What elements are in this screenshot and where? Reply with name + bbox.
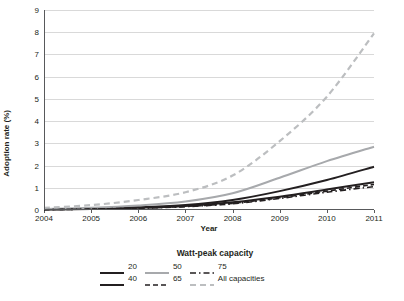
x-axis-tick-label: 2011	[365, 214, 382, 223]
legend-entry: 20	[100, 262, 137, 271]
y-axis-tick-label: 6	[35, 72, 39, 81]
x-axis-title: Year	[44, 224, 374, 233]
legend-label: 65	[173, 274, 182, 283]
legend-label: 75	[218, 262, 227, 271]
axis-frame	[44, 10, 374, 210]
plot-area: 0123456789 20042005200620072008200920102…	[44, 10, 374, 210]
legend-rows: 2050754065All capacities	[100, 262, 330, 283]
legend-swatch-icon	[145, 263, 169, 271]
legend-label: All capacities	[218, 274, 265, 283]
x-axis-tick-label: 2010	[318, 214, 336, 223]
x-axis-tick-label: 2008	[224, 214, 242, 223]
legend-label: 40	[128, 274, 137, 283]
x-axis-tickmark	[327, 210, 328, 213]
legend-row: 205075	[100, 262, 330, 271]
legend-entry: 65	[145, 274, 182, 283]
y-axis-title: Adoption rate (%)	[2, 110, 11, 177]
legend-row: 4065All capacities	[100, 274, 330, 283]
y-axis-tick-label: 5	[35, 94, 39, 103]
x-axis-tick-label: 2007	[177, 214, 195, 223]
legend-entry: 40	[100, 274, 137, 283]
y-axis-tick-label: 2	[35, 161, 39, 170]
y-axis-tick-label: 8	[35, 28, 39, 37]
legend-swatch-icon	[190, 275, 214, 283]
chart-container: Adoption rate (%) 0123456789 20042005200…	[0, 0, 404, 301]
legend-label: 50	[173, 262, 182, 271]
legend-entry: 75	[190, 262, 227, 271]
x-axis-tickmark	[138, 210, 139, 213]
chart-legend: Watt-peak capacity 2050754065All capacit…	[100, 248, 330, 283]
x-axis-tick-label: 2006	[129, 214, 147, 223]
y-axis-tick-label: 3	[35, 139, 39, 148]
legend-swatch-icon	[100, 275, 124, 283]
legend-swatch-icon	[100, 263, 124, 271]
legend-swatch-icon	[145, 275, 169, 283]
x-axis-tickmark	[280, 210, 281, 213]
legend-title: Watt-peak capacity	[100, 248, 330, 258]
x-axis-tickmark	[91, 210, 92, 213]
x-axis-tickmark	[374, 210, 375, 213]
y-axis-tick-label: 9	[35, 6, 39, 15]
legend-label: 20	[128, 262, 137, 271]
y-axis-tick-label: 7	[35, 50, 39, 59]
legend-swatch-icon	[190, 263, 214, 271]
y-axis-tick-label: 4	[35, 117, 39, 126]
x-axis-tickmark	[185, 210, 186, 213]
y-axis-tick-label: 1	[35, 183, 39, 192]
x-axis-tick-label: 2009	[271, 214, 289, 223]
x-axis-tick-label: 2005	[82, 214, 100, 223]
legend-entry: All capacities	[190, 274, 265, 283]
x-axis-tick-label: 2004	[35, 214, 53, 223]
x-axis-tickmark	[233, 210, 234, 213]
legend-entry: 50	[145, 262, 182, 271]
